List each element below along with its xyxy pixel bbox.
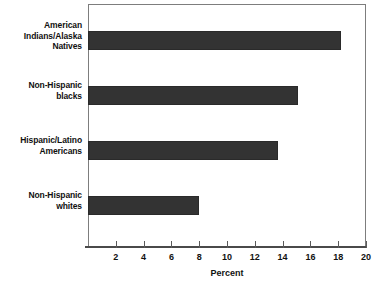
x-tick-label: 8 — [187, 252, 211, 262]
x-tick-label: 14 — [271, 252, 295, 262]
x-tick-label: 10 — [215, 252, 239, 262]
x-tick-mark — [310, 241, 311, 248]
bar[interactable] — [88, 141, 278, 160]
x-tick-mark — [338, 241, 339, 248]
category-label: Non-Hispanicwhites — [0, 190, 82, 211]
bar-row: Hispanic/LatinoAmericans — [0, 141, 377, 160]
bar-chart: AmericanIndians/AlaskaNatives Non-Hispan… — [0, 0, 377, 288]
x-tick-mark — [255, 241, 256, 248]
bar-row: Non-Hispanicblacks — [0, 86, 377, 105]
x-tick-mark — [283, 241, 284, 248]
x-axis-title: Percent — [88, 268, 366, 278]
x-tick-label: 4 — [132, 252, 156, 262]
bar-row: Non-Hispanicwhites — [0, 196, 377, 215]
x-tick-mark — [144, 241, 145, 248]
x-axis-line — [85, 246, 367, 248]
category-label: AmericanIndians/AlaskaNatives — [0, 20, 82, 52]
category-label: Non-Hispanicblacks — [0, 80, 82, 101]
x-tick-label: 18 — [326, 252, 350, 262]
x-tick-mark — [116, 241, 117, 248]
x-tick-label: 12 — [243, 252, 267, 262]
x-tick-mark — [199, 241, 200, 248]
x-tick-mark — [227, 241, 228, 248]
x-tick-mark — [366, 241, 367, 248]
bar[interactable] — [88, 196, 199, 215]
bar[interactable] — [88, 86, 298, 105]
x-tick-label: 20 — [354, 252, 377, 262]
x-tick-label: 2 — [104, 252, 128, 262]
x-tick-label: 16 — [298, 252, 322, 262]
bar-row: AmericanIndians/AlaskaNatives — [0, 31, 377, 50]
bar[interactable] — [88, 31, 341, 50]
x-tick-mark — [171, 241, 172, 248]
category-label: Hispanic/LatinoAmericans — [0, 135, 82, 156]
x-tick-label: 6 — [159, 252, 183, 262]
